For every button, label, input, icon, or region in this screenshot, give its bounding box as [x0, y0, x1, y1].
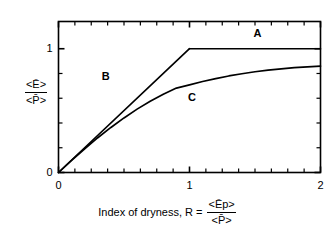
curve-label-c: C	[188, 92, 196, 103]
x-tick-label-0: 0	[55, 180, 61, 191]
y-axis-numerator: <Ē>	[24, 78, 48, 92]
x-axis-fraction: <Ēp> <P̄>	[206, 198, 236, 226]
curve-label-a: A	[254, 28, 262, 39]
chart-figure: A B C 0 1 0 1 2 <Ē> <P̄> Index of dryne…	[0, 0, 335, 240]
y-axis-denominator: <P̄>	[24, 93, 48, 107]
y-tick-label-1: 1	[46, 43, 52, 54]
y-axis-fraction: <Ē> <P̄>	[24, 78, 48, 106]
y-axis-label: <Ē> <P̄>	[16, 78, 56, 108]
x-tick-label-2: 2	[317, 180, 323, 191]
x-axis-denominator: <P̄>	[206, 213, 236, 227]
curve-label-b: B	[102, 71, 110, 82]
x-tick-label-1: 1	[186, 180, 192, 191]
y-tick-label-0: 0	[46, 167, 52, 178]
x-axis-label-text: Index of dryness, R =	[98, 207, 202, 218]
x-axis-numerator: <Ēp>	[206, 198, 236, 212]
x-axis-label: Index of dryness, R = <Ēp> <P̄>	[0, 198, 335, 226]
x-axis-caption: Index of dryness, R = <Ēp> <P̄>	[98, 198, 237, 226]
